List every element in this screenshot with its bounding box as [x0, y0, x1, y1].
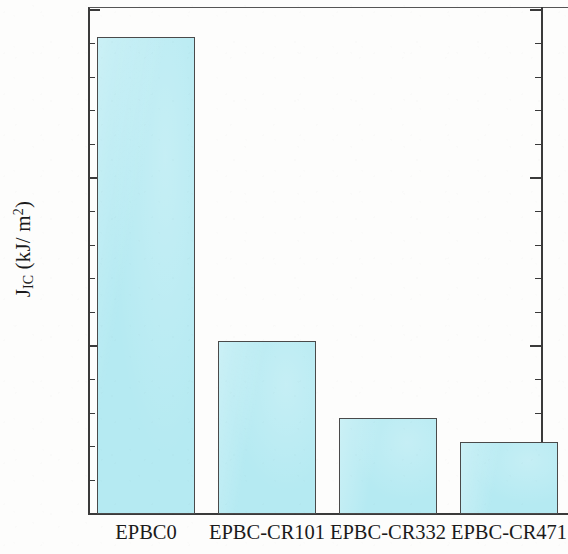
- bar-epbc-cr101: [218, 341, 316, 514]
- y-axis-title-subscript: IC: [21, 275, 36, 289]
- y-tick-minor-right: [535, 144, 542, 145]
- y-tick-minor: [88, 211, 95, 212]
- bar-epbc-cr332: [339, 418, 437, 514]
- y-tick-minor-right: [535, 245, 542, 246]
- bar-sheen: [219, 342, 315, 513]
- y-tick-minor: [88, 379, 95, 380]
- y-tick-minor-right: [535, 77, 542, 78]
- y-tick-minor: [88, 278, 95, 279]
- y-tick-major: [88, 9, 100, 11]
- y-tick-minor: [88, 144, 95, 145]
- x-category-label: EPBC-CR332: [325, 521, 451, 544]
- y-tick-minor-right: [535, 379, 542, 380]
- y-tick-minor: [88, 110, 95, 111]
- y-tick-minor: [88, 446, 95, 447]
- y-tick-minor: [88, 413, 95, 414]
- y-tick-minor: [88, 312, 95, 313]
- y-axis-title-unit-open: (kJ/ m: [11, 215, 35, 275]
- x-category-label: EPBC-CR471: [446, 521, 568, 544]
- y-axis-title-unit-exponent: 2: [11, 208, 26, 215]
- right-axis-spine: [541, 7, 543, 515]
- y-tick-minor-right: [535, 278, 542, 279]
- y-tick-minor: [88, 480, 95, 481]
- y-tick-minor-right: [535, 211, 542, 212]
- y-tick-minor-right: [535, 413, 542, 414]
- bar-sheen: [461, 443, 557, 513]
- y-axis-title-main: J: [11, 289, 35, 297]
- y-tick-minor-right: [535, 110, 542, 111]
- bar-chart-figure: JIC (kJ/ m2) 051015 EPBC0EPBC-CR101EPBC-…: [0, 0, 568, 554]
- y-axis-title-unit-close: ): [11, 201, 35, 208]
- x-category-label: EPBC-CR101: [204, 521, 330, 544]
- bar-sheen: [340, 419, 436, 513]
- bar-epbc0: [97, 37, 195, 514]
- y-tick-major-right: [530, 9, 542, 10]
- y-axis-title: JIC (kJ/ m2): [11, 159, 37, 339]
- bar-epbc-cr471: [460, 442, 558, 514]
- y-tick-minor: [88, 77, 95, 78]
- y-tick-major-right: [530, 345, 542, 346]
- y-tick-minor-right: [535, 43, 542, 44]
- y-tick-major-right: [530, 177, 542, 178]
- y-tick-minor-right: [535, 312, 542, 313]
- y-tick-minor: [88, 43, 95, 44]
- x-category-label: EPBC0: [83, 521, 209, 544]
- bar-sheen: [98, 38, 194, 513]
- y-tick-minor: [88, 245, 95, 246]
